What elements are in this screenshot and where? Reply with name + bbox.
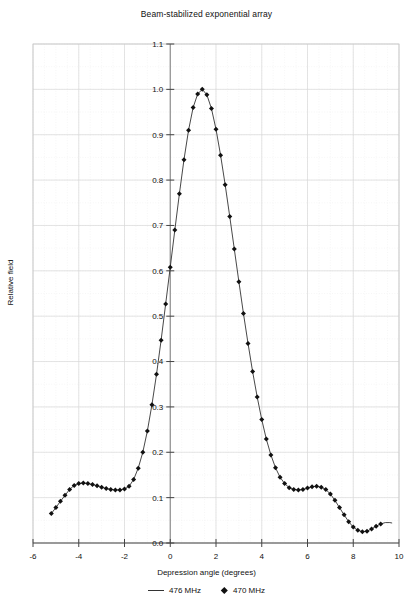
diamond-swatch-icon [221,587,228,594]
x-axis-tick-label: 4 [260,552,265,561]
data-marker [95,483,100,488]
data-marker [360,529,365,534]
data-marker [99,485,104,490]
data-marker [131,477,136,482]
x-axis-label: Depression angle (degrees) [0,568,413,577]
data-marker [236,279,241,284]
data-marker [145,428,150,433]
x-axis-tick-label: 10 [395,552,404,561]
data-marker [108,487,113,492]
data-marker [122,487,127,492]
line-swatch-icon [148,590,164,591]
data-marker [300,487,305,492]
data-marker [209,106,214,111]
data-marker [296,487,301,492]
data-marker [191,105,196,110]
x-axis-tick-label: 2 [214,552,219,561]
data-marker [374,524,379,529]
legend-item-markers: 470 MHz [221,586,265,595]
data-marker [246,341,251,346]
data-marker [136,466,141,471]
data-marker [378,521,383,526]
data-marker [218,153,223,158]
data-marker [250,369,255,374]
data-marker [81,481,86,486]
data-marker [186,128,191,133]
data-marker [181,157,186,162]
y-axis-tick-label: 0.6 [152,267,164,276]
y-axis-tick-label: 0.2 [152,448,164,457]
y-axis-tick-label: 0.5 [152,312,164,321]
data-marker [305,486,310,491]
data-marker [259,417,264,422]
y-axis-tick-label: 1.0 [152,85,164,94]
data-marker [177,191,182,196]
y-axis-tick-label: 0.9 [152,131,164,140]
legend-label-0: 476 MHz [169,586,201,595]
data-marker [159,338,164,343]
x-axis-tick-label: 6 [305,552,310,561]
data-marker [168,265,173,270]
y-axis-tick-label: 0.7 [152,221,164,230]
chart-figure: Beam-stabilized exponential array Relati… [0,0,413,604]
data-marker [241,311,246,316]
y-axis-tick-label: 1.1 [152,40,164,49]
data-marker [214,127,219,132]
y-axis-tick-label: 0.8 [152,176,164,185]
data-marker [337,505,342,510]
data-marker [227,214,232,219]
data-marker [291,487,296,492]
data-marker [268,452,273,457]
data-marker [264,437,269,442]
data-marker [310,484,315,489]
data-marker [232,247,237,252]
x-axis-tick-label: 0 [168,552,173,561]
legend-item-line: 476 MHz [148,586,201,595]
x-axis-tick-label: -4 [75,552,83,561]
x-axis-tick-label: -6 [29,552,37,561]
data-marker [113,487,118,492]
x-axis-tick-label: 8 [351,552,356,561]
y-axis-tick-label: 0.0 [152,539,164,548]
data-marker [314,484,319,489]
data-marker [364,529,369,534]
legend-label-1: 470 MHz [233,586,265,595]
x-axis-tick-label: -2 [121,552,129,561]
data-marker [154,372,159,377]
data-marker [163,301,168,306]
chart-legend: 476 MHz 470 MHz [0,586,413,595]
data-marker [76,481,81,486]
data-marker [140,450,145,455]
data-marker [104,486,109,491]
data-marker [223,182,228,187]
data-marker [90,482,95,487]
data-marker [319,485,324,490]
data-marker [342,512,347,517]
data-marker [117,487,122,492]
plot-canvas: 0.00.10.20.30.40.50.60.70.80.91.01.1-6-4… [0,0,413,604]
data-marker [85,481,90,486]
data-marker [369,526,374,531]
data-marker [273,465,278,470]
y-axis-tick-label: 0.1 [152,494,164,503]
data-marker [172,227,177,232]
data-marker [127,484,132,489]
data-marker [255,394,260,399]
